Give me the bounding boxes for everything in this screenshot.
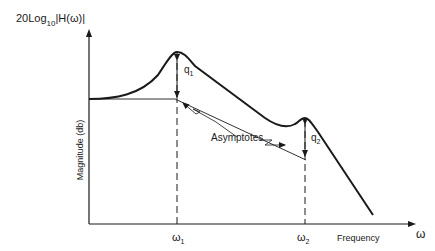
- x-axis-title: Frequency: [337, 233, 380, 243]
- omega2-label: ω2: [297, 231, 310, 245]
- asymptotes-label: Asymptotes: [211, 132, 263, 143]
- x-axis-symbol: ω: [416, 227, 425, 241]
- y-axis-title: Magnitude (db): [75, 120, 85, 181]
- asymptote-mid: [175, 99, 306, 160]
- q1-label: q1: [184, 64, 194, 77]
- asymptote-leader-1-zigzag: [183, 103, 200, 114]
- bode-magnitude-diagram: 20Log10|H(ω)| Magnitude (db) q1 q2 Asymp…: [0, 0, 435, 251]
- y-axis-top-label: 20Log10|H(ω)|: [16, 12, 85, 28]
- diagram-svg: 20Log10|H(ω)| Magnitude (db) q1 q2 Asymp…: [0, 0, 435, 251]
- omega1-label: ω1: [172, 231, 185, 245]
